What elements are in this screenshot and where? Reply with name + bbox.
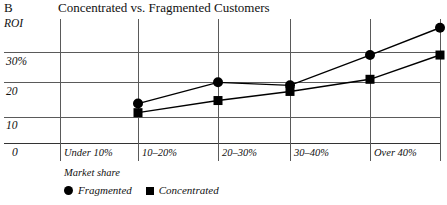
gridline-vertical-1 <box>138 19 139 160</box>
legend-item-concentrated[interactable]: Concentrated <box>146 184 219 197</box>
y-axis-title: ROI <box>4 17 23 30</box>
gridline-20 <box>4 82 440 83</box>
xlabel-sep-2 <box>218 144 219 161</box>
circle-marker-icon <box>64 186 73 195</box>
chart-figure: B Concentrated vs. Fragmented Customers … <box>0 0 447 205</box>
gridline-vertical-2 <box>218 19 219 160</box>
gridline-vertical-0 <box>60 19 61 160</box>
xlabel-sep-5 <box>440 144 441 161</box>
x-axis-title: Market share <box>64 166 120 179</box>
x-tick-label-4: Over 40% <box>374 146 417 159</box>
gridline-vertical-4 <box>370 19 371 160</box>
gridline-30 <box>4 52 440 53</box>
xlabel-sep-4 <box>370 144 371 161</box>
xlabel-sep-3 <box>290 144 291 161</box>
x-tick-label-3: 30–40% <box>294 146 329 159</box>
xlabel-sep-1 <box>138 144 139 161</box>
x-tick-label-2: 20–30% <box>222 146 257 159</box>
x-tick-label-0: Under 10% <box>64 146 113 159</box>
legend-label-concentrated: Concentrated <box>159 184 219 197</box>
y-tick-label-30: 30% <box>6 55 27 68</box>
x-tick-label-1: 10–20% <box>142 146 177 159</box>
chart-legend: Fragmented Concentrated <box>64 184 219 197</box>
y-tick-label-0: 0 <box>12 146 18 159</box>
y-tick-label-20: 20 <box>6 85 18 98</box>
gridline-vertical-5 <box>440 19 441 160</box>
legend-label-fragmented: Fragmented <box>78 184 132 197</box>
gridline-10 <box>4 117 440 118</box>
square-marker-icon <box>146 187 154 195</box>
x-axis-line <box>4 143 440 144</box>
xlabel-sep-0 <box>60 144 61 161</box>
gridline-vertical-3 <box>290 19 291 160</box>
legend-item-fragmented[interactable]: Fragmented <box>64 184 132 197</box>
y-tick-label-10: 10 <box>6 119 18 132</box>
